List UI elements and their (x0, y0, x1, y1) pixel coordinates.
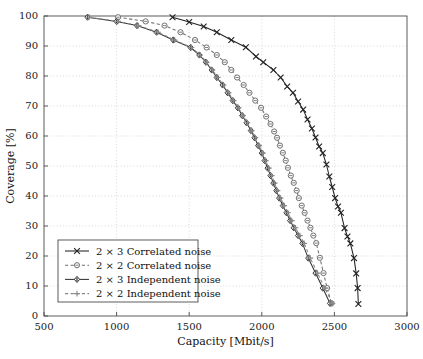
x-tick-label: 500 (34, 321, 53, 332)
marker-x (345, 234, 351, 240)
y-tick-label: 50 (25, 160, 38, 171)
marker-x (290, 90, 296, 96)
y-tick-label: 60 (25, 130, 38, 141)
y-tick-label: 40 (25, 190, 38, 201)
x-tick-label: 2000 (249, 321, 274, 332)
chart-figure: 0102030405060708090100500100015002000250… (0, 0, 423, 359)
marker-x (295, 99, 301, 105)
marker-x (214, 29, 220, 35)
y-tick-label: 0 (32, 310, 38, 321)
marker-x (335, 204, 341, 210)
y-tick-label: 100 (19, 10, 38, 21)
y-tick-label: 80 (25, 70, 38, 81)
marker-x (170, 14, 176, 20)
capacity-coverage-line-chart: 0102030405060708090100500100015002000250… (0, 0, 423, 359)
y-tick-label: 70 (25, 100, 38, 111)
legend-label: 2 × 3 Correlated noise (96, 246, 211, 257)
y-tick-label: 10 (25, 280, 38, 291)
legend-label: 2 × 2 Correlated noise (96, 260, 211, 271)
legend-label: 2 × 2 Independent noise (96, 288, 221, 299)
marker-x (320, 150, 326, 156)
marker-x (305, 117, 311, 123)
marker-x (316, 144, 322, 150)
marker-x (309, 126, 315, 132)
marker-x (278, 75, 284, 81)
marker-x (284, 84, 290, 90)
x-tick-label: 1000 (104, 321, 129, 332)
marker-x (260, 59, 266, 65)
x-tick-label: 1500 (176, 321, 201, 332)
x-tick-label: 2500 (322, 321, 347, 332)
marker-x (253, 54, 259, 60)
marker-x (313, 135, 319, 141)
y-axis-title: Coverage [%] (4, 128, 17, 204)
y-tick-label: 30 (25, 220, 38, 231)
legend-label: 2 × 3 Independent noise (96, 274, 221, 285)
marker-x (228, 37, 234, 43)
y-tick-label: 90 (25, 40, 38, 51)
marker-x (300, 107, 306, 113)
x-axis-title: Capacity [Mbit/s] (177, 335, 274, 348)
marker-x (243, 44, 249, 50)
marker-x (201, 24, 207, 30)
y-tick-label: 20 (25, 250, 38, 261)
marker-x (271, 67, 277, 73)
chart-legend: 2 × 3 Correlated noise2 × 2 Correlated n… (58, 240, 221, 302)
x-tick-label: 3000 (394, 321, 419, 332)
